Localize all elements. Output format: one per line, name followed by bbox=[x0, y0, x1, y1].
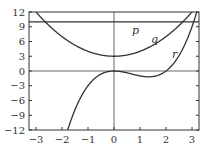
y-tick-label: −3 bbox=[10, 80, 25, 91]
y-tick-label: 6 bbox=[19, 36, 25, 47]
label-r: r bbox=[172, 48, 178, 61]
y-tick-label: 9 bbox=[19, 21, 25, 32]
label-q: q bbox=[151, 33, 158, 46]
curves bbox=[29, 1, 200, 149]
x-tick-label: −2 bbox=[55, 134, 70, 145]
function-plot: −3−2−10123129630−3−6−9−12 p q r bbox=[0, 0, 206, 150]
y-tick-label: −6 bbox=[10, 95, 25, 106]
y-tick-label: 3 bbox=[19, 51, 25, 62]
y-tick-label: −12 bbox=[4, 125, 25, 136]
y-tick-label: −9 bbox=[10, 110, 25, 121]
x-tick-label: −1 bbox=[81, 134, 96, 145]
y-tick-label: 12 bbox=[12, 7, 25, 18]
y-tick-label: 0 bbox=[19, 66, 25, 77]
curve-r bbox=[62, 1, 200, 149]
x-tick-label: 2 bbox=[163, 134, 169, 145]
label-p: p bbox=[132, 24, 139, 37]
x-tick-label: −3 bbox=[29, 134, 44, 145]
x-tick-label: 0 bbox=[111, 134, 117, 145]
axis-ticks: −3−2−10123129630−3−6−9−12 bbox=[4, 7, 199, 146]
x-tick-label: 1 bbox=[137, 134, 143, 145]
x-tick-label: 3 bbox=[189, 134, 195, 145]
